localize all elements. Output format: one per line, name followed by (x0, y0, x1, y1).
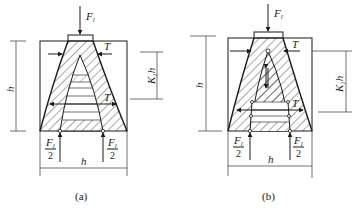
tension-label-mid: T (104, 91, 111, 103)
reaction-right-num: Fl (293, 134, 303, 148)
caption-a: (a) (75, 190, 88, 203)
tension-label-top: T (104, 40, 111, 52)
panel-a: Fl T T (4, 6, 163, 203)
bearing-plate (254, 32, 283, 38)
dim-k1h-label: K1h (333, 75, 347, 93)
inner-bottom-hatch (60, 120, 103, 131)
reaction-left-num: Fl (233, 134, 243, 148)
tension-label-mid: T (292, 97, 299, 109)
strut-and-tie-diagram: Fl T T (0, 0, 360, 208)
reaction-right-num: Fl (107, 136, 117, 150)
reaction-left-den: 2 (236, 148, 241, 159)
dim-width-label: h (81, 155, 87, 167)
dim-width-label: h (268, 153, 274, 165)
dim-k1h-label: K1h (145, 67, 159, 85)
reaction-right-den: 2 (110, 150, 115, 161)
panel-b: Fl T T (190, 4, 352, 203)
load-label: Fl (273, 7, 283, 21)
tension-label-top: T (292, 38, 299, 50)
bearing-plate (68, 35, 93, 41)
dim-height (10, 41, 26, 131)
reaction-right-den: 2 (296, 148, 301, 159)
caption-b: (b) (262, 190, 275, 203)
reaction-left-den: 2 (48, 150, 53, 161)
load-label: Fl (85, 10, 95, 24)
dim-height-label: h (193, 82, 205, 88)
dim-height-label: h (4, 86, 16, 92)
reaction-left-num: Fl (45, 136, 55, 150)
